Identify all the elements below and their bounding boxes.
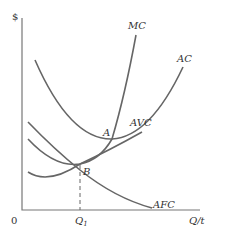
cost-curves-diagram: $ 0 Q/t Q1 AC AVC AFC MC A B — [0, 0, 225, 240]
avc-label: AVC — [129, 117, 152, 128]
q1-label: Q1 — [75, 215, 88, 228]
mc-label: MC — [127, 20, 146, 31]
y-axis-label: $ — [12, 11, 18, 22]
axes — [22, 18, 200, 210]
x-axis-label: Q/t — [189, 215, 206, 226]
afc-curve — [28, 122, 152, 208]
afc-label: AFC — [152, 199, 175, 210]
origin-label: 0 — [11, 215, 17, 226]
point-b-label: B — [82, 166, 90, 177]
ac-label: AC — [176, 53, 192, 64]
point-a-label: A — [102, 127, 110, 138]
mc-curve — [28, 35, 136, 164]
